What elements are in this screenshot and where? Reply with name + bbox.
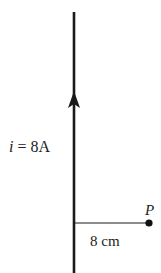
diagram-canvas: i = 8A P 8 cm	[0, 0, 161, 273]
current-value: = 8A	[13, 138, 50, 155]
distance-label: 8 cm	[90, 233, 120, 249]
current-label: i = 8A	[9, 138, 50, 155]
point-label: P	[144, 202, 154, 218]
point-p-dot	[145, 219, 152, 226]
